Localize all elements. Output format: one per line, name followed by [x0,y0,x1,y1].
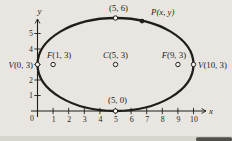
vertex-right-label: V(10, 3) [198,60,227,70]
figure-page: 1234567891012450xy(5, 6)P(x, y)V(0, 3)V(… [0,0,232,141]
x-tick-label: 3 [83,115,87,124]
focus-left-marker [51,62,55,66]
origin-label: 0 [30,114,34,123]
x-tick-label: 8 [161,115,165,124]
ellipse-figure: 1234567891012450xy(5, 6)P(x, y)V(0, 3)V(… [0,0,232,141]
covertex-bottom-marker [113,109,117,113]
vertex-left-marker [35,62,39,66]
vertex-left-label: V(0, 3) [9,60,33,70]
covertex-top-marker [113,16,117,20]
focus-right-marker [176,62,180,66]
vertex-right-marker [191,62,195,66]
center-point-label: C(5, 3) [103,50,128,60]
covertex-top-label: (5, 6) [109,3,128,13]
x-axis-label: x [208,106,213,116]
focus-left-label: F(1, 3) [46,50,71,60]
focus-right-label: F(9, 3) [161,50,186,60]
y-tick-label: 5 [29,29,33,38]
x-tick-label: 2 [67,115,71,124]
x-tick-label: 4 [98,115,102,124]
x-tick-label: 1 [52,115,56,124]
scan-smudge [196,137,232,141]
y-tick-label: 2 [29,76,33,85]
x-tick-label: 10 [190,115,198,124]
center-point-marker [113,62,117,66]
y-axis-label: y [37,6,42,16]
y-tick-label: 1 [29,91,33,100]
y-tick-label: 4 [29,45,33,54]
x-tick-label: 6 [130,115,134,124]
x-tick-label: 5 [114,115,118,124]
x-tick-label: 7 [145,115,149,124]
point-p-label: P(x, y) [150,7,175,17]
x-tick-label: 9 [176,115,180,124]
covertex-bottom-label: (5, 0) [108,95,127,105]
point-p-marker [140,19,145,24]
